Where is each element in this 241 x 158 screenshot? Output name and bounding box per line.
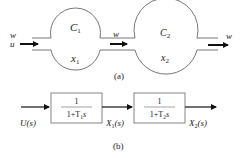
- tank-1-state-label: x1: [70, 52, 80, 66]
- block-diagram: 1 1+T1s 1 1+T2s U(s) X1(s) X2(s) (b): [20, 93, 216, 151]
- input-signal-label: U(s): [20, 118, 36, 128]
- block-2-denominator: 1+T2s: [150, 110, 169, 120]
- two-tank-diagram: w u w w C1 x1 C2 x2 (a) 1 1+T1s 1 1+T2s …: [0, 0, 241, 158]
- block-1-numerator: 1: [75, 97, 79, 106]
- tank-2-capacity-label: C2: [160, 27, 171, 40]
- block-1-denominator: 1+T1s: [67, 110, 86, 120]
- block-2-numerator: 1: [158, 97, 162, 106]
- inlet-label-u: u: [10, 39, 15, 49]
- middle-flow-label: w: [113, 29, 119, 39]
- tank-system: w u w w C1 x1 C2 x2 (a): [10, 0, 232, 81]
- tank-1-capacity-label: C1: [70, 21, 81, 35]
- signal-x1-label: X1(s): [105, 118, 124, 129]
- caption-b: (b): [113, 141, 124, 151]
- caption-a: (a): [114, 71, 124, 81]
- tank-2-state-label: x2: [160, 52, 169, 65]
- signal-x2-label: X2(s): [188, 118, 207, 129]
- outlet-flow-label: w: [226, 31, 232, 41]
